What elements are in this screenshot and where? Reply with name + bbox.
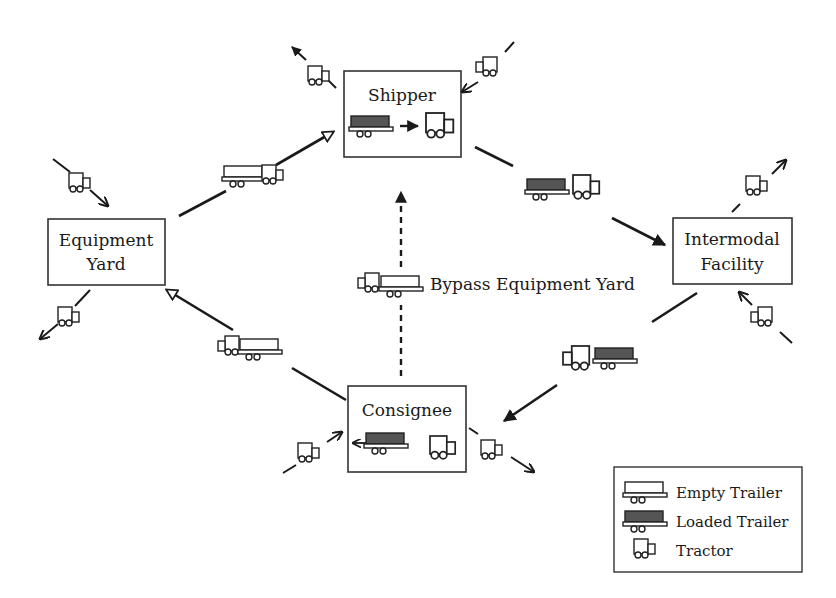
tractor-arriving-shipper: [462, 42, 514, 92]
tractor-leaving-shipper: [292, 47, 336, 88]
tractor-leaving-consignee: [469, 428, 534, 472]
edge-consignee-to-equipment-yard: [167, 290, 346, 400]
tractor-icon: [308, 66, 329, 85]
legend-tractor-label: Tractor: [676, 542, 734, 560]
empty-trailer-icon: [238, 339, 282, 360]
tractor-icon: [262, 165, 283, 184]
bypass-label: Bypass Equipment Yard: [430, 274, 635, 294]
tractor-arriving-intermodal: [739, 292, 792, 343]
empty-trailer-icon: [379, 276, 423, 297]
tractor-icon: [58, 307, 79, 326]
equipment-yard-label-1: Equipment: [59, 230, 154, 250]
tractor-arriving-consignee: [283, 432, 342, 473]
tractor-leaving-intermodal: [732, 160, 786, 212]
tractor-icon: [573, 175, 599, 199]
edge-shipper-to-intermodal: [475, 147, 665, 245]
tractor-icon: [69, 173, 90, 192]
node-equipment-yard: Equipment Yard: [48, 219, 165, 285]
node-shipper: Shipper: [344, 71, 461, 157]
edge-equipment-yard-to-shipper: [179, 132, 333, 216]
legend-loaded-trailer-label: Loaded Trailer: [676, 513, 789, 531]
loaded-trailer-icon: [593, 348, 637, 369]
intermodal-label-1: Intermodal: [684, 229, 780, 249]
consignee-label: Consignee: [362, 400, 452, 420]
loaded-trailer-icon: [525, 179, 569, 200]
node-consignee: Consignee: [348, 386, 466, 472]
tractor-icon: [563, 346, 589, 370]
empty-trailer-icon: [222, 166, 266, 187]
node-intermodal-facility: Intermodal Facility: [673, 218, 792, 284]
shipper-label: Shipper: [368, 85, 437, 105]
tractor-icon: [476, 57, 497, 76]
tractor-icon: [358, 273, 379, 292]
tractor-leaving-equipment-yard: [40, 290, 90, 339]
tractor-icon: [481, 440, 502, 459]
legend-empty-trailer-label: Empty Trailer: [676, 484, 783, 502]
edge-intermodal-to-consignee: [504, 293, 697, 421]
drayage-flow-diagram: Shipper Equipment Yard: [0, 0, 836, 598]
legend: Empty Trailer Loaded Trailer Tractor: [614, 467, 802, 572]
tractor-icon: [298, 443, 319, 462]
tractor-icon: [746, 176, 767, 195]
intermodal-label-2: Facility: [700, 254, 763, 274]
tractor-icon: [218, 336, 239, 355]
tractor-icon: [751, 307, 772, 326]
equipment-yard-label-2: Yard: [85, 254, 125, 274]
tractor-arriving-equipment-yard: [53, 159, 108, 206]
edge-bypass-equipment-yard: Bypass Equipment Yard: [358, 192, 635, 376]
